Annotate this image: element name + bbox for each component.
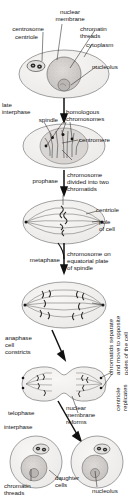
label-nuclear-membrane-reforms: nuclear membrane reforms bbox=[66, 404, 110, 426]
label-chromosome-divided: chromosome divided into two chromatids bbox=[67, 171, 128, 193]
label-chromosome-equatorial: chromosome on equatorial plate of spindl… bbox=[67, 250, 128, 272]
label-centromere: centromere bbox=[79, 136, 110, 143]
label-nucleolus-top: nucleolus bbox=[92, 63, 118, 70]
label-spindle: spindle bbox=[0, 116, 58, 123]
label-chromatin-threads: chromatin threads bbox=[80, 25, 128, 39]
label-anaphase-cell-constricts: anaphase cell constricts bbox=[5, 334, 49, 356]
label-centrosome: centrosome bbox=[0, 25, 44, 32]
label-prophase: prophase bbox=[0, 177, 58, 184]
label-nucleolus-bottom: nucleolus bbox=[92, 487, 118, 494]
arrow-metaphase-to-anaphase bbox=[52, 330, 65, 360]
label-daughter-cells: daughter cells bbox=[55, 474, 91, 488]
label-homologous-chromosomes: homologous chromosomes bbox=[66, 108, 128, 122]
label-centriole-replicates: centriole replicates bbox=[114, 385, 128, 411]
label-nuclear-membrane: nuclear membrane bbox=[48, 8, 92, 22]
metaphase-cell-art bbox=[22, 282, 106, 328]
label-cytoplasm: cytoplasm bbox=[86, 41, 113, 48]
label-late-interphase: late interphase bbox=[2, 101, 50, 115]
label-centriole-mid: centriole bbox=[96, 206, 119, 213]
label-interphase: interphase bbox=[4, 423, 32, 430]
label-pole-of-cell: pole of cell bbox=[99, 218, 128, 232]
interphase-cell-art bbox=[19, 50, 109, 98]
late-interphase-cell-art bbox=[23, 124, 105, 168]
label-chromatin-threads-bottom: chromatin threads bbox=[4, 482, 52, 496]
label-telophase: telophase bbox=[8, 409, 34, 416]
label-chromatids-separate: chromatids separate and move to opposite… bbox=[107, 316, 128, 375]
telophase-cell-art bbox=[22, 367, 106, 401]
label-centriole-top: centriole bbox=[0, 33, 38, 40]
label-metaphase: metaphase bbox=[0, 256, 60, 263]
mitosis-diagram: nuclear membrane centrosome centriole ch… bbox=[0, 0, 128, 497]
